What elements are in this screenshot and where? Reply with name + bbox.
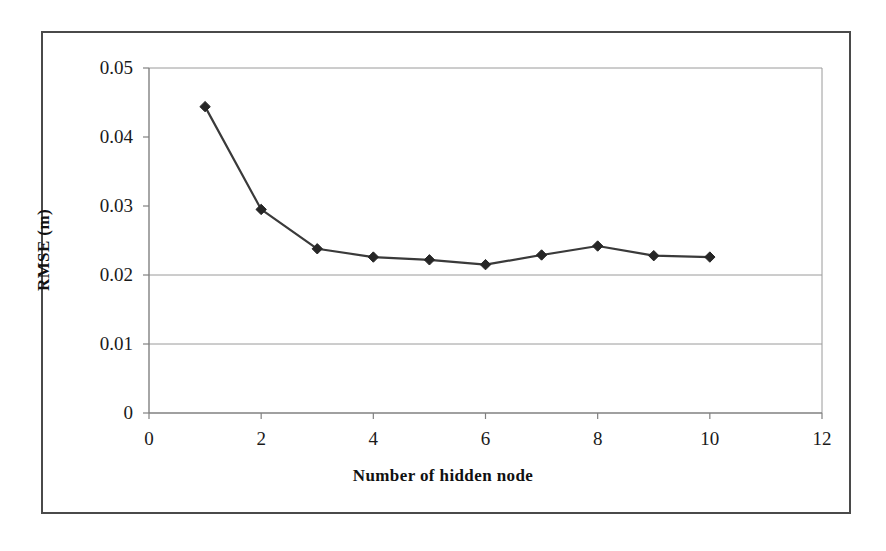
figure-root: 00.010.020.030.040.05 024681012 RMSE (m)… (0, 0, 886, 551)
x-tick-label: 8 (558, 429, 638, 448)
x-tick-label: 10 (670, 429, 750, 448)
x-axis-title: Number of hidden node (0, 466, 886, 486)
y-axis-title: RMSE (m) (34, 185, 54, 315)
x-tick-label: 0 (109, 429, 189, 448)
x-tick-label: 6 (446, 429, 526, 448)
y-tick-label: 0.01 (43, 334, 133, 353)
y-tick-label: 0.02 (43, 265, 133, 284)
y-tick-label: 0.05 (43, 58, 133, 77)
x-tick-label: 4 (333, 429, 413, 448)
y-tick-label: 0.04 (43, 127, 133, 146)
y-tick-label: 0 (43, 403, 133, 422)
y-tick-label: 0.03 (43, 196, 133, 215)
x-tick-label: 2 (221, 429, 301, 448)
x-tick-label: 12 (782, 429, 862, 448)
